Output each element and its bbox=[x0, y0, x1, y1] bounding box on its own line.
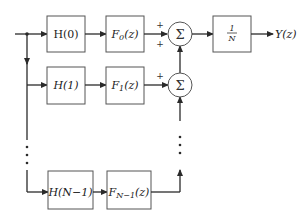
plus-sign: + bbox=[156, 39, 164, 49]
ellipsis-dot bbox=[26, 162, 29, 165]
scale-numerator: 1 bbox=[229, 24, 234, 33]
output-label: Y(z) bbox=[275, 28, 297, 41]
f1-label: F1(z) bbox=[110, 79, 138, 93]
ellipsis-dot bbox=[179, 136, 182, 139]
right-bus bbox=[179, 46, 182, 154]
row-n-minus-1: H(N−1) FN−1(z) bbox=[47, 170, 180, 209]
ellipsis-dot bbox=[26, 154, 29, 157]
input-branch bbox=[15, 32, 48, 192]
filter-bank-diagram: H(0) F0(z) H(1) F1(z) H(N−1) FN−1(z) Σ + bbox=[0, 0, 305, 219]
plus-sign: + bbox=[156, 20, 164, 30]
scale-and-output: 1 N Y(z) bbox=[192, 16, 297, 52]
hn1-label: H(N−1) bbox=[47, 186, 92, 199]
row-1: H(1) F1(z) bbox=[47, 67, 168, 104]
ellipsis-dot bbox=[179, 144, 182, 147]
ellipsis-dot bbox=[179, 152, 182, 155]
h1-label: H(1) bbox=[52, 79, 78, 92]
scale-denominator: N bbox=[228, 34, 237, 43]
summer-1: Σ + bbox=[156, 71, 192, 97]
f0-label: F0(z) bbox=[110, 28, 138, 42]
sigma-icon: Σ bbox=[175, 27, 184, 42]
ellipsis-dot bbox=[26, 146, 29, 149]
plus-sign: + bbox=[156, 71, 164, 81]
row-0: H(0) F0(z) bbox=[47, 16, 167, 52]
h0-label: H(0) bbox=[53, 28, 78, 41]
sigma-icon: Σ bbox=[175, 78, 184, 93]
